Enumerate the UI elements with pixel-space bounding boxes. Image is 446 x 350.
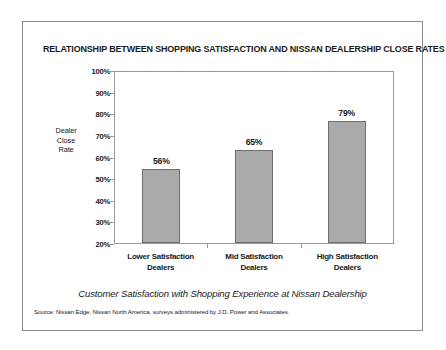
y-axis-tick-mark [110, 244, 114, 245]
x-axis-category-line-2: Dealers [301, 263, 394, 274]
y-axis-tick-label: 90% [95, 88, 110, 97]
y-axis-tick-label: 80% [95, 110, 110, 119]
x-axis-category-line-1: Mid Satisfaction [207, 252, 300, 263]
chart-title: RELATIONSHIP BETWEEN SHOPPING SATISFACTI… [43, 44, 393, 55]
x-axis-category-line-2: Dealers [207, 263, 300, 274]
x-axis-tick-mark [207, 244, 208, 248]
x-axis-labels: Lower Satisfaction Dealers Mid Satisfact… [114, 252, 394, 273]
y-axis-tick-label: 30% [95, 218, 110, 227]
x-axis-category-line-1: High Satisfaction [301, 252, 394, 263]
bar[interactable] [235, 150, 273, 243]
bar-value-label: 65% [208, 137, 301, 147]
figure-container: RELATIONSHIP BETWEEN SHOPPING SATISFACTI… [22, 21, 423, 331]
bar-slot: 65% [208, 72, 301, 243]
source-note: Source: Nissan Edge, Nissan North Americ… [34, 308, 289, 315]
y-axis-tick-label: 50% [95, 175, 110, 184]
y-axis-tick-label: 40% [95, 196, 110, 205]
y-axis: 100%90%80%70%60%50%40%30%20% [78, 66, 114, 249]
plot-area: 56% 65% 79% [114, 71, 394, 244]
bar[interactable] [142, 169, 180, 243]
bar-value-label: 56% [115, 156, 208, 166]
x-axis-category-label: Lower Satisfaction Dealers [114, 252, 207, 273]
bar-series: 56% 65% 79% [115, 72, 393, 243]
y-axis-tick-label: 70% [95, 131, 110, 140]
chart-caption: Customer Satisfaction with Shopping Expe… [23, 288, 422, 299]
bar-slot: 79% [300, 72, 393, 243]
x-axis-tick-mark [301, 244, 302, 248]
x-axis-category-label: Mid Satisfaction Dealers [207, 252, 300, 273]
x-axis-category-line-2: Dealers [114, 263, 207, 274]
bar-value-label: 79% [300, 108, 393, 118]
y-axis-tick-label: 60% [95, 153, 110, 162]
bar[interactable] [328, 121, 366, 243]
x-axis-category-label: High Satisfaction Dealers [301, 252, 394, 273]
bar-slot: 56% [115, 72, 208, 243]
x-axis-category-line-1: Lower Satisfaction [114, 252, 207, 263]
y-axis-tick-label: 100% [91, 67, 110, 76]
y-axis-tick-label: 20% [95, 240, 110, 249]
